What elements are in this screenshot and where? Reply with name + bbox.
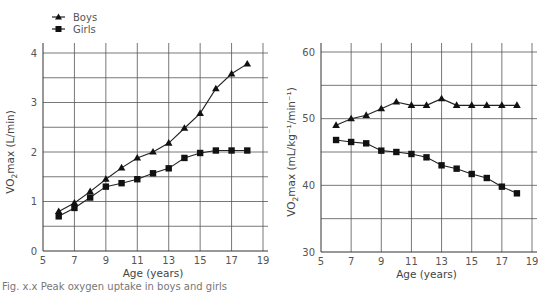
- x-axis-label: Age (years): [396, 268, 457, 280]
- triangle-marker-icon: [86, 188, 94, 195]
- x-tick-label: 5: [318, 256, 324, 267]
- y-tick-label: 60: [302, 47, 315, 58]
- legend-label-boys: Boys: [73, 12, 97, 23]
- legend-label-girls: Girls: [73, 24, 96, 35]
- x-tick-label: 9: [378, 256, 384, 267]
- x-tick-label: 7: [348, 256, 354, 267]
- square-marker-icon: [499, 183, 505, 189]
- y-tick-label: 1: [31, 196, 37, 207]
- x-axis-label: Age (years): [123, 267, 184, 279]
- triangle-marker-icon: [118, 164, 126, 171]
- square-marker-icon: [378, 147, 384, 153]
- square-marker-icon: [150, 170, 156, 176]
- square-marker-icon: [363, 140, 369, 146]
- y-tick-label: 4: [31, 48, 37, 59]
- x-tick-label: 11: [405, 256, 418, 267]
- y-tick-label: 2: [31, 147, 37, 158]
- legend-item-boys: Boys: [52, 12, 97, 23]
- y-axis-label: VO2max (mL/kg⁻¹/min⁻¹): [285, 87, 300, 217]
- square-marker-icon: [213, 147, 219, 153]
- x-tick-label: 7: [71, 255, 77, 266]
- triangle-marker-icon: [71, 199, 79, 206]
- series-line-boys: [59, 64, 248, 212]
- triangle-marker-icon: [498, 101, 506, 108]
- chart-vo2max-relative: 579111315171930405060Age (years)VO2max (…: [285, 43, 538, 280]
- square-marker-icon: [333, 137, 339, 143]
- x-tick-label: 17: [495, 256, 508, 267]
- triangle-marker-icon: [513, 101, 521, 108]
- square-marker-icon: [408, 151, 414, 157]
- x-tick-label: 15: [194, 255, 207, 266]
- x-tick-label: 5: [40, 255, 46, 266]
- x-tick-label: 13: [435, 256, 448, 267]
- triangle-marker-icon: [393, 98, 401, 105]
- triangle-marker-icon: [228, 70, 236, 77]
- triangle-marker-icon: [149, 148, 157, 155]
- triangle-marker-icon: [483, 101, 491, 108]
- square-marker-icon: [423, 154, 429, 160]
- legend: Boys Girls: [52, 12, 97, 35]
- triangle-marker-icon: [468, 101, 476, 108]
- square-marker-icon: [469, 171, 475, 177]
- square-marker-icon: [103, 183, 109, 189]
- y-tick-label: 0: [31, 246, 37, 257]
- triangle-marker-icon: [102, 175, 110, 182]
- x-tick-label: 9: [103, 255, 109, 266]
- x-tick-label: 15: [465, 256, 478, 267]
- square-marker-icon: [181, 155, 187, 161]
- square-marker-icon: [166, 165, 172, 171]
- square-marker-icon: [197, 150, 203, 156]
- square-marker-icon: [87, 194, 93, 200]
- y-tick-label: 30: [302, 247, 315, 258]
- series-line-girls: [59, 151, 248, 217]
- y-tick-label: 3: [31, 97, 37, 108]
- x-tick-label: 11: [131, 255, 144, 266]
- square-marker-icon: [393, 149, 399, 155]
- y-axis-label: VO2max (L/min): [4, 110, 19, 194]
- square-marker-icon: [118, 180, 124, 186]
- square-marker-icon: [244, 147, 250, 153]
- square-marker-icon: [56, 26, 62, 32]
- square-marker-icon: [438, 162, 444, 168]
- y-tick-label: 40: [302, 180, 315, 191]
- square-marker-icon: [514, 190, 520, 196]
- x-tick-label: 13: [162, 255, 175, 266]
- square-marker-icon: [348, 139, 354, 145]
- y-tick-label: 50: [302, 113, 315, 124]
- figure-caption: Fig. x.x Peak oxygen uptake in boys and …: [2, 281, 227, 292]
- triangle-marker-icon: [55, 207, 63, 214]
- square-marker-icon: [453, 165, 459, 171]
- square-marker-icon: [484, 175, 490, 181]
- x-tick-label: 19: [526, 256, 539, 267]
- square-marker-icon: [56, 213, 62, 219]
- triangle-marker-icon: [196, 109, 204, 116]
- triangle-marker-icon: [243, 60, 251, 67]
- legend-item-girls: Girls: [52, 24, 96, 35]
- x-tick-label: 17: [225, 255, 238, 266]
- square-marker-icon: [134, 176, 140, 182]
- square-marker-icon: [228, 147, 234, 153]
- square-marker-icon: [71, 205, 77, 211]
- chart-vo2max-absolute: 579111315171901234Age (years)VO2max (L/m…: [4, 43, 269, 279]
- triangle-marker-icon: [438, 95, 446, 102]
- x-tick-label: 19: [257, 255, 270, 266]
